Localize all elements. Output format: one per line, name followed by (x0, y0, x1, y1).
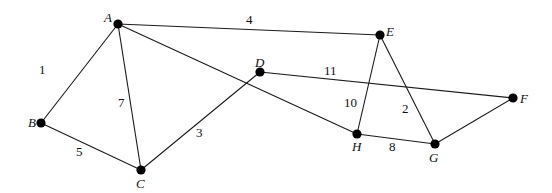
node-label-c: C (136, 176, 145, 191)
edge-weight-c-d: 3 (196, 125, 203, 140)
edge-h-g (357, 134, 435, 144)
edge-weight-a-e: 4 (246, 12, 253, 27)
graph-canvas: 17453111028 ABCDEFGH (0, 0, 552, 193)
node-e (375, 30, 384, 39)
node-g (430, 139, 439, 148)
node-c (136, 165, 145, 174)
node-label-d: D (254, 55, 265, 70)
edge-a-b (41, 24, 118, 123)
node-label-a: A (103, 10, 112, 25)
node-a (113, 19, 122, 28)
edge-weight-b-c: 5 (76, 144, 83, 159)
edge-c-d (141, 72, 260, 170)
edge-a-h (118, 24, 357, 134)
edge-weight-h-g: 8 (389, 139, 396, 154)
node-label-e: E (385, 24, 394, 39)
edge-weight-a-b: 1 (39, 62, 46, 77)
edge-weight-e-g: 2 (402, 101, 409, 116)
node-f (508, 93, 517, 102)
node-labels-layer: ABCDEFGH (28, 10, 529, 191)
node-label-g: G (429, 150, 439, 165)
node-label-f: F (519, 91, 529, 106)
graph-diagram: 17453111028 ABCDEFGH (0, 0, 552, 193)
edge-g-f (435, 98, 513, 144)
node-b (36, 118, 45, 127)
node-label-b: B (28, 115, 36, 130)
node-label-h: H (351, 139, 362, 154)
edges-layer (41, 24, 513, 170)
edge-weight-d-f: 11 (324, 63, 337, 78)
edge-d-f (260, 72, 513, 98)
edge-weight-e-h: 10 (344, 95, 357, 110)
edge-b-c (41, 123, 141, 170)
edge-weight-a-c: 7 (118, 95, 125, 110)
node-h (352, 129, 361, 138)
